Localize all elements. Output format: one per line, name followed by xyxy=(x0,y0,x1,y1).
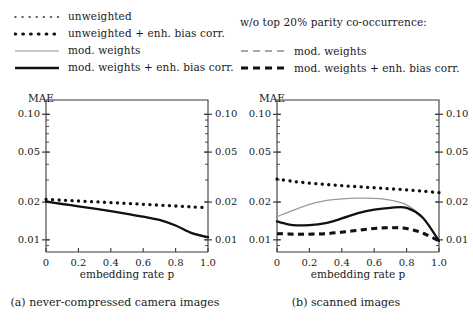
series-line xyxy=(277,179,439,193)
y-tick-label-left: 0.05 xyxy=(231,146,271,157)
caption-a: (a) never-compressed camera images xyxy=(5,296,225,309)
caption-b: (b) scanned images xyxy=(236,296,456,309)
y-tick-label-left: 0.02 xyxy=(0,196,40,207)
x-axis-label-b: embedding rate p xyxy=(277,268,439,280)
y-tick-label-right: 0.02 xyxy=(446,196,473,207)
x-axis-label-a: embedding rate p xyxy=(46,268,208,280)
x-tick-label: 1.0 xyxy=(188,257,228,268)
y-tick-label-right: 0.10 xyxy=(446,108,473,119)
plot-panel-b: MAE embedding rate p (b) scanned images … xyxy=(231,0,461,321)
x-tick-label: 1.0 xyxy=(419,257,459,268)
y-tick-label-left: 0.01 xyxy=(0,234,40,245)
series-line xyxy=(46,199,208,207)
y-tick-label-left: 0.02 xyxy=(231,196,271,207)
y-tick-label-left: 0.05 xyxy=(0,146,40,157)
y-tick-label-right: 0.05 xyxy=(446,146,473,157)
y-tick-label-right: 0.01 xyxy=(446,234,473,245)
plot-panel-a: MAE embedding rate p (a) never-compresse… xyxy=(0,0,230,321)
y-tick-label-left: 0.01 xyxy=(231,234,271,245)
y-tick-label-left: 0.10 xyxy=(231,108,271,119)
series-line xyxy=(277,207,439,241)
y-tick-label-left: 0.10 xyxy=(0,108,40,119)
series-line xyxy=(277,228,439,241)
